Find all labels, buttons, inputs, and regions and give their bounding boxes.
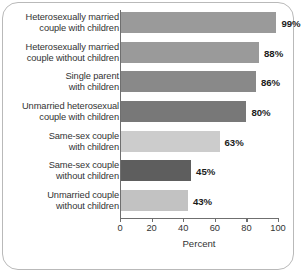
bar[interactable] [120, 190, 188, 211]
x-axis-tick-label: 40 [178, 223, 188, 233]
x-axis-tick-label: 20 [146, 223, 156, 233]
bar[interactable] [120, 101, 246, 122]
bar-value-label: 86% [256, 76, 280, 87]
bar-row: 88% [120, 42, 278, 63]
bar[interactable] [120, 42, 259, 63]
bar-value-label: 88% [259, 47, 283, 58]
bar-value-label: 63% [220, 136, 244, 147]
category-label: Unmarried heterosexual couple with child… [0, 101, 119, 122]
x-axis-tick [246, 218, 247, 222]
x-axis-tick [278, 218, 279, 222]
category-label: Same-sex couple without children [0, 160, 119, 181]
category-label: Heterosexually married couple with child… [0, 12, 119, 33]
bar-value-label: 43% [188, 195, 212, 206]
bar-row: 63% [120, 131, 278, 152]
x-axis-tick-label: 60 [210, 223, 220, 233]
category-label: Heterosexually married couple without ch… [0, 42, 119, 63]
bar-value-label: 99% [276, 17, 300, 28]
bar-row: 45% [120, 160, 278, 181]
x-axis-line [120, 218, 278, 219]
bar[interactable] [120, 71, 256, 92]
x-axis-tick-label: 80 [241, 223, 251, 233]
bar[interactable] [120, 131, 220, 152]
x-axis-tick [120, 218, 121, 222]
bar-value-label: 80% [246, 106, 270, 117]
x-axis-tick [152, 218, 153, 222]
bar-row: 99% [120, 12, 278, 33]
y-axis-line [120, 10, 121, 218]
x-axis-tick-label: 0 [117, 223, 122, 233]
x-axis-title: Percent [182, 238, 215, 249]
category-label: Same-sex couple with children [0, 131, 119, 152]
x-axis-tick [183, 218, 184, 222]
bar[interactable] [120, 160, 191, 181]
category-label: Single parent with children [0, 71, 119, 92]
category-label: Unmarried couple without children [0, 190, 119, 211]
bar-value-label: 45% [191, 165, 215, 176]
bar[interactable] [120, 12, 276, 33]
x-axis-tick [215, 218, 216, 222]
bar-row: 80% [120, 101, 278, 122]
bar-row: 43% [120, 190, 278, 211]
bar-row: 86% [120, 71, 278, 92]
x-axis-tick-label: 100 [270, 223, 286, 233]
